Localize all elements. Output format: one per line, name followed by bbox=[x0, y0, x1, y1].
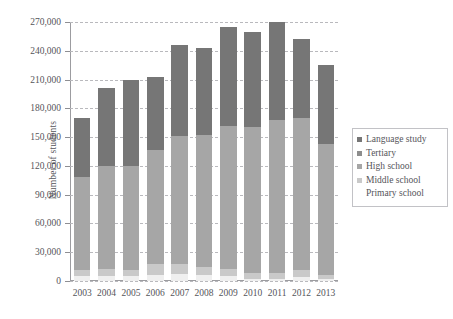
bar-segment bbox=[196, 267, 213, 276]
bar-segment bbox=[293, 277, 310, 281]
bar-segment bbox=[220, 269, 237, 277]
x-axis-tick-label: 2003 bbox=[73, 288, 92, 298]
x-axis-tick-label: 2005 bbox=[121, 288, 140, 298]
bar-segment bbox=[98, 276, 115, 281]
bar-segment bbox=[123, 166, 140, 270]
legend-item[interactable]: Middle school bbox=[357, 174, 444, 188]
bar-column[interactable] bbox=[318, 65, 335, 281]
legend-item[interactable]: High school bbox=[357, 160, 444, 174]
bar-segment bbox=[74, 177, 91, 269]
legend-swatch-icon bbox=[357, 137, 362, 142]
bar-segment bbox=[293, 270, 310, 277]
legend-item[interactable]: Tertiary bbox=[357, 147, 444, 161]
y-axis-tick-label: 240,000 bbox=[30, 46, 61, 56]
y-axis-tick-label: 60,000 bbox=[35, 218, 61, 228]
x-axis-tick-label: 2004 bbox=[97, 288, 116, 298]
x-axis-tick-label: 2011 bbox=[268, 288, 287, 298]
bar-column[interactable] bbox=[220, 27, 237, 281]
legend-swatch-icon bbox=[357, 164, 362, 169]
bar-segment bbox=[123, 276, 140, 281]
bar-segment bbox=[147, 77, 164, 150]
gridline bbox=[70, 281, 338, 282]
bar-segment bbox=[293, 39, 310, 118]
bar-series-group bbox=[70, 22, 338, 281]
stacked-bar-chart: Number of students 030,00060,00090,00012… bbox=[0, 0, 453, 319]
bar-column[interactable] bbox=[196, 48, 213, 281]
legend-item-label: High school bbox=[366, 162, 412, 172]
y-axis-tick bbox=[65, 281, 70, 282]
bar-segment bbox=[147, 275, 164, 281]
bar-segment bbox=[74, 276, 91, 281]
bar-segment bbox=[74, 270, 91, 277]
bar-column[interactable] bbox=[74, 118, 91, 281]
bar-segment bbox=[318, 144, 335, 275]
bar-segment bbox=[269, 279, 286, 281]
chart-legend: Language studyTertiaryHigh schoolMiddle … bbox=[352, 128, 448, 207]
bar-column[interactable] bbox=[293, 39, 310, 281]
bar-segment bbox=[98, 88, 115, 166]
legend-item-label: Primary school bbox=[366, 189, 424, 199]
bar-segment bbox=[196, 48, 213, 135]
bar-segment bbox=[171, 45, 188, 136]
legend-item[interactable]: Primary school bbox=[357, 187, 444, 201]
bar-column[interactable] bbox=[98, 88, 115, 281]
bar-segment bbox=[171, 136, 188, 264]
y-axis-tick-label: 150,000 bbox=[30, 132, 61, 142]
bar-segment bbox=[220, 27, 237, 126]
x-axis-tick-label: 2007 bbox=[170, 288, 189, 298]
bar-segment bbox=[98, 269, 115, 277]
bar-column[interactable] bbox=[269, 22, 286, 281]
plot-area: 030,00060,00090,000120,000150,000180,000… bbox=[70, 22, 338, 281]
x-axis-tick-label: 2013 bbox=[316, 288, 335, 298]
bar-column[interactable] bbox=[123, 80, 140, 281]
legend-swatch-icon bbox=[357, 178, 362, 183]
y-axis-tick-label: 270,000 bbox=[30, 17, 61, 27]
legend-item-label: Middle school bbox=[366, 176, 421, 186]
bar-segment bbox=[269, 22, 286, 120]
y-axis-tick-label: 90,000 bbox=[35, 190, 61, 200]
bar-segment bbox=[318, 65, 335, 144]
bar-column[interactable] bbox=[171, 45, 188, 281]
bar-segment bbox=[220, 276, 237, 281]
x-axis-tick-label: 2009 bbox=[219, 288, 238, 298]
x-axis-tick-label: 2010 bbox=[243, 288, 262, 298]
bar-segment bbox=[244, 279, 261, 281]
y-axis-tick-label: 180,000 bbox=[30, 103, 61, 113]
x-axis-tick-label: 2012 bbox=[292, 288, 311, 298]
bar-segment bbox=[123, 270, 140, 277]
bar-column[interactable] bbox=[244, 32, 261, 281]
bar-segment bbox=[171, 264, 188, 275]
bar-segment bbox=[269, 120, 286, 273]
x-axis-tick-label: 2006 bbox=[146, 288, 165, 298]
y-axis-tick-label: 30,000 bbox=[35, 247, 61, 257]
bar-segment bbox=[98, 166, 115, 269]
bar-segment bbox=[196, 275, 213, 281]
y-axis-tick-label: 120,000 bbox=[30, 161, 61, 171]
bar-segment bbox=[171, 274, 188, 281]
y-axis-tick-label: 210,000 bbox=[30, 75, 61, 85]
legend-item-label: Tertiary bbox=[366, 149, 396, 159]
bar-segment bbox=[147, 150, 164, 264]
legend-item-label: Language study bbox=[366, 135, 426, 145]
bar-segment bbox=[196, 135, 213, 266]
bar-segment bbox=[318, 279, 335, 281]
legend-swatch-icon bbox=[357, 151, 362, 156]
bar-segment bbox=[74, 118, 91, 177]
bar-column[interactable] bbox=[147, 77, 164, 281]
bar-segment bbox=[293, 118, 310, 271]
bar-segment bbox=[244, 127, 261, 274]
bar-segment bbox=[244, 32, 261, 127]
bar-segment bbox=[220, 126, 237, 269]
legend-swatch-icon bbox=[357, 191, 362, 196]
y-axis-tick-label: 0 bbox=[56, 276, 61, 286]
bar-segment bbox=[147, 264, 164, 276]
bar-segment bbox=[123, 80, 140, 166]
x-axis-tick-label: 2008 bbox=[195, 288, 214, 298]
legend-item[interactable]: Language study bbox=[357, 133, 444, 147]
